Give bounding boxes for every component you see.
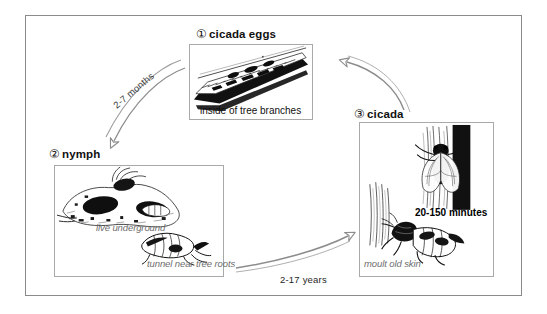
panel-cicada: [359, 122, 494, 277]
stage-label-eggs: ①cicada eggs: [196, 27, 276, 41]
stage-number-3: ③: [354, 108, 365, 120]
caption-live-underground: live underground: [96, 222, 165, 233]
stage-title-2: nymph: [62, 148, 100, 160]
stage-label-nymph: ②nymph: [49, 147, 100, 161]
caption-moult-old-skin: moult old skin: [364, 258, 421, 269]
stage-label-cicada: ③cicada: [354, 107, 404, 121]
caption-inside-tree-branches: inside of tree branches: [200, 105, 301, 116]
stage-title-3: cicada: [367, 108, 403, 120]
adult-cicada-and-moult-illustration: [360, 123, 493, 276]
stage-number-1: ①: [196, 28, 207, 40]
arrow-label-nymph-to-cicada: 2-17 years: [280, 274, 327, 285]
caption-tunnel-near-tree-roots: tunnel near tree roots: [147, 258, 235, 269]
caption-20-150-minutes: 20-150 minutes: [415, 207, 487, 218]
stage-title-1: cicada eggs: [209, 28, 276, 40]
cicada-life-cycle-diagram: ①cicada eggs: [0, 0, 547, 314]
stage-number-2: ②: [49, 148, 60, 160]
